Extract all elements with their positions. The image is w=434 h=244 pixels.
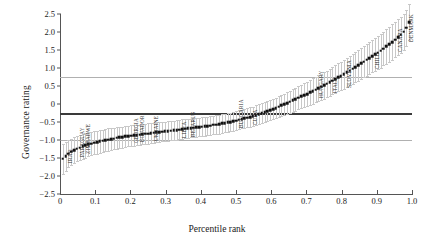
error-bar-cap xyxy=(394,57,397,58)
error-bar-cap xyxy=(275,98,278,99)
error-bar-cap xyxy=(400,53,403,54)
error-bar-cap xyxy=(76,161,79,162)
error-bar-cap xyxy=(289,91,292,92)
x-tick-mark xyxy=(130,190,131,195)
error-bar-cap xyxy=(99,153,102,154)
error-bar-cap xyxy=(371,72,374,73)
error-bar-cap xyxy=(258,104,261,105)
data-point xyxy=(394,38,397,41)
error-bar-cap xyxy=(385,64,388,65)
reference-line xyxy=(60,140,412,141)
error-bar-cap xyxy=(303,83,306,84)
error-bar-cap xyxy=(363,46,366,47)
error-bar-cap xyxy=(73,163,76,164)
error-bar-cap xyxy=(394,22,397,23)
country-label: HUNGARY xyxy=(318,71,324,98)
country-label: CANADA xyxy=(397,28,403,52)
error-bar-cap xyxy=(62,174,65,175)
x-tick-label: 0.5 xyxy=(231,196,242,206)
error-bar-cap xyxy=(272,99,275,100)
error-bar-cap xyxy=(360,79,363,80)
x-tick-mark xyxy=(60,190,61,195)
data-point xyxy=(62,157,65,160)
error-bar-cap xyxy=(334,65,337,66)
error-bar-cap xyxy=(377,36,380,37)
error-bar-cap xyxy=(272,119,275,120)
country-label: IRAQ xyxy=(67,150,73,164)
error-bar-cap xyxy=(354,52,357,53)
error-bar-cap xyxy=(264,122,267,123)
error-bar-cap xyxy=(391,24,394,25)
error-bar-cap xyxy=(312,78,315,79)
error-bar-cap xyxy=(306,82,309,83)
error-bar-cap xyxy=(405,46,408,47)
country-label: UKRAINE xyxy=(153,116,159,141)
error-bar-cap xyxy=(329,96,332,97)
x-tick-mark xyxy=(166,190,167,195)
error-bar-cap xyxy=(397,19,400,20)
error-bar-cap xyxy=(67,140,70,141)
x-tick-mark xyxy=(342,190,343,195)
y-tick-mark xyxy=(57,104,61,105)
error-bar-cap xyxy=(62,144,65,145)
error-bar-cap xyxy=(300,108,303,109)
error-bar-cap xyxy=(297,86,300,87)
error-bar-cap xyxy=(278,96,281,97)
error-bar-cap xyxy=(70,139,73,140)
error-bar-cap xyxy=(70,165,73,166)
country-label: LIBYA xyxy=(181,122,187,139)
y-tick-mark xyxy=(57,50,61,51)
x-tick-label: 0 xyxy=(58,196,62,206)
y-tick-mark xyxy=(57,86,61,87)
plot-area: IRAQPARAGUAYZIMBABWEGEORGIAECUADORUKRAIN… xyxy=(60,14,412,194)
error-bar-cap xyxy=(400,17,403,18)
error-bar-cap xyxy=(300,85,303,86)
country-label: ZIMBABWE xyxy=(85,124,91,154)
error-bar-cap xyxy=(334,93,337,94)
error-bar-cap xyxy=(326,97,329,98)
country-label: BULGARIA xyxy=(238,99,244,128)
country-label: BELARUS xyxy=(190,112,196,137)
error-bar-cap xyxy=(79,160,82,161)
error-bar-cap xyxy=(408,4,411,5)
error-bar-cap xyxy=(264,102,267,103)
y-tick-mark xyxy=(57,158,61,159)
error-bar-cap xyxy=(391,60,394,61)
error-bar-cap xyxy=(280,95,283,96)
error-bar-cap xyxy=(280,116,283,117)
error-bar-cap xyxy=(371,40,374,41)
error-bar-cap xyxy=(255,125,258,126)
country-label: SLOVENIA xyxy=(346,60,352,88)
country-label: CHILE xyxy=(374,52,380,69)
chart-figure: Governance rating Percentile rank IRAQPA… xyxy=(0,0,434,244)
error-bar-cap xyxy=(368,42,371,43)
error-bar-cap xyxy=(306,106,309,107)
error-bar-cap xyxy=(326,71,329,72)
error-bar-cap xyxy=(340,62,343,63)
error-bar-cap xyxy=(357,50,360,51)
error-bar-cap xyxy=(385,29,388,30)
error-bar-cap xyxy=(382,65,385,66)
error-bar-cap xyxy=(278,117,281,118)
error-bar-cap xyxy=(377,69,380,70)
x-tick-mark xyxy=(236,190,237,195)
y-axis-title: Governance rating xyxy=(21,52,31,192)
error-bar-cap xyxy=(403,14,406,15)
error-bar-cap xyxy=(294,111,297,112)
data-point xyxy=(391,41,394,44)
error-bar-cap xyxy=(366,44,369,45)
error-bar-cap xyxy=(252,107,255,108)
error-bar-cap xyxy=(65,171,68,172)
error-bar-cap xyxy=(388,27,391,28)
error-bar-cap xyxy=(368,74,371,75)
error-bar-cap xyxy=(374,38,377,39)
error-bar-cap xyxy=(382,32,385,33)
error-bar-cap xyxy=(283,115,286,116)
x-tick-label: 0.4 xyxy=(195,196,206,206)
x-tick-mark xyxy=(271,190,272,195)
error-bar-cap xyxy=(405,10,408,11)
error-bar-cap xyxy=(397,55,400,56)
error-bar-cap xyxy=(275,118,278,119)
error-bar-cap xyxy=(266,121,269,122)
x-tick-mark xyxy=(95,190,96,195)
